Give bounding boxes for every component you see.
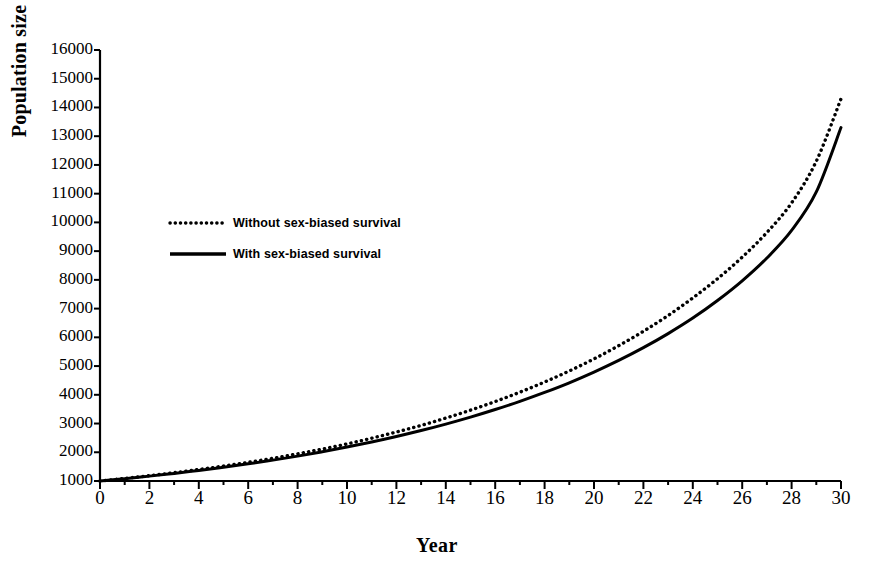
legend-label-without-sex-biased-survival: Without sex-biased survival bbox=[233, 216, 401, 230]
plot-area bbox=[0, 0, 874, 587]
legend-sample-lines bbox=[170, 223, 226, 254]
series-line-with-sex-biased-survival bbox=[100, 128, 841, 481]
chart-figure: Population size Year 1000200030004000500… bbox=[0, 0, 874, 587]
data-series-group bbox=[100, 99, 841, 481]
x-axis-tickmarks bbox=[100, 481, 841, 489]
legend-label-with-sex-biased-survival: With sex-biased survival bbox=[233, 247, 381, 261]
